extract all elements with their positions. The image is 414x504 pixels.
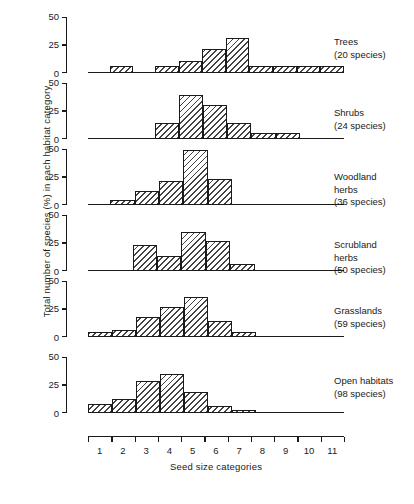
plot-area [88, 17, 344, 73]
series-label-line: (59 species) [334, 318, 386, 331]
x-tick [274, 437, 275, 442]
bar-group [88, 357, 344, 412]
x-tick [251, 437, 252, 442]
x-tick-label-10: 10 [297, 444, 320, 458]
bar-group [88, 17, 344, 72]
bar-cat-5 [179, 95, 203, 138]
bar-cat-6 [202, 49, 226, 71]
bar-cat-3 [136, 381, 160, 411]
bar-cat-4 [157, 256, 181, 269]
y-axis: 50250 [60, 83, 67, 139]
bar-cat-4 [155, 123, 179, 138]
y-tick-label-25: 25 [48, 380, 59, 390]
panel-baseline [88, 204, 344, 205]
series-label-line: Woodland [334, 171, 386, 184]
y-tick-50 [62, 281, 67, 282]
y-tick-25 [62, 384, 67, 385]
series-label-line: herbs [334, 252, 386, 265]
panel-grasslands: 50250 [60, 281, 344, 337]
series-label-woodland-herbs: Woodlandherbs(36 species) [334, 171, 386, 209]
y-tick-25 [62, 242, 67, 243]
series-label-line: Scrubland [334, 239, 386, 252]
bar-cat-5 [184, 297, 208, 336]
bar-cat-5 [179, 61, 203, 72]
y-tick-25 [62, 308, 67, 309]
y-tick-label-50: 50 [48, 144, 59, 154]
y-tick-0 [62, 204, 67, 205]
bar-cat-7 [226, 38, 250, 72]
x-tick-label-1: 1 [88, 444, 111, 458]
panel-baseline [88, 412, 344, 413]
x-tick [111, 437, 112, 442]
bar-group [88, 281, 344, 336]
y-tick-label-25: 25 [48, 40, 59, 50]
y-tick-label-0: 0 [54, 409, 59, 419]
y-tick-label-25: 25 [48, 106, 59, 116]
y-tick-0 [62, 336, 67, 337]
series-label-open-habitats: Open habitats(98 species) [334, 375, 393, 400]
x-tick-label-6: 6 [204, 444, 227, 458]
plot-area [88, 215, 344, 271]
panel-open-habitats: 50250 [60, 357, 344, 413]
y-axis: 50250 [60, 357, 67, 413]
bar-cat-7 [227, 123, 251, 138]
y-axis: 50250 [60, 281, 67, 337]
x-tick [88, 437, 89, 442]
series-label-line: Open habitats [334, 375, 393, 388]
bar-cat-6 [208, 321, 232, 336]
series-label-line: (24 species) [334, 120, 386, 133]
y-tick-label-25: 25 [48, 304, 59, 314]
x-tick-label-3: 3 [135, 444, 158, 458]
panel-woodland-herbs: 50250 [60, 149, 344, 205]
seed-size-histogram-figure: Total number of species (%) in each habi… [0, 0, 414, 504]
y-tick-50 [62, 149, 67, 150]
x-tick [204, 437, 205, 442]
bar-cat-3 [135, 191, 159, 203]
series-label-line: (20 species) [334, 49, 386, 62]
y-tick-label-0: 0 [54, 333, 59, 343]
series-label-grasslands: Grasslands(59 species) [334, 305, 386, 330]
y-tick-25 [62, 176, 67, 177]
x-tick-label-4: 4 [158, 444, 181, 458]
x-axis-ticks [88, 437, 344, 442]
panel-trees: 50250 [60, 17, 344, 73]
y-tick-0 [62, 412, 67, 413]
x-tick [181, 437, 182, 442]
bar-cat-6 [203, 105, 227, 137]
x-tick-label-5: 5 [181, 444, 204, 458]
panel-baseline [88, 270, 344, 271]
panel-baseline [88, 138, 344, 139]
series-label-line: Trees [334, 36, 386, 49]
x-tick [321, 437, 322, 442]
y-tick-0 [62, 138, 67, 139]
x-tick [297, 437, 298, 442]
bar-group [88, 83, 344, 138]
series-label-line: herbs [334, 184, 386, 197]
y-tick-50 [62, 83, 67, 84]
series-label-scrubland-herbs: Scrublandherbs(50 species) [334, 239, 386, 277]
y-tick-label-25: 25 [48, 238, 59, 248]
bar-cat-5 [183, 150, 207, 204]
y-axis: 50250 [60, 17, 67, 73]
x-tick [228, 437, 229, 442]
y-tick-50 [62, 357, 67, 358]
x-tick-label-8: 8 [251, 444, 274, 458]
panel-shrubs: 50250 [60, 83, 344, 139]
series-label-shrubs: Shrubs(24 species) [334, 107, 386, 132]
panel-baseline [88, 336, 344, 337]
series-label-line: Grasslands [334, 305, 386, 318]
bar-cat-4 [160, 307, 184, 336]
bar-cat-6 [208, 179, 232, 204]
x-tick-label-7: 7 [228, 444, 251, 458]
series-label-line: (36 species) [334, 196, 386, 209]
plot-area [88, 83, 344, 139]
bar-cat-1 [88, 404, 112, 412]
bar-cat-3 [136, 317, 160, 336]
y-tick-label-50: 50 [48, 12, 59, 22]
x-axis-title: Seed size categories [88, 461, 344, 472]
panel-scrubland-herbs: 50250 [60, 215, 344, 271]
x-tick-label-11: 11 [321, 444, 344, 458]
y-tick-0 [62, 270, 67, 271]
series-label-trees: Trees(20 species) [334, 36, 386, 61]
y-axis: 50250 [60, 215, 67, 271]
